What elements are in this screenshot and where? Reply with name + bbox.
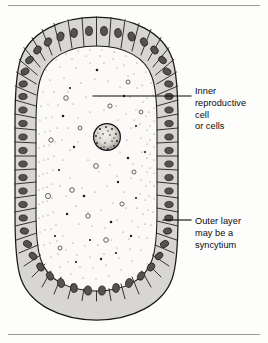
inner-reproductive-cell bbox=[94, 124, 121, 151]
cross-section-drawing bbox=[0, 0, 268, 343]
annotation-label-inner-reproductive-cell: Inner reproductive cell or cells bbox=[195, 86, 246, 133]
annotation-label-outer-layer-syncytium: Outer layer may be a syncytium bbox=[195, 216, 241, 251]
organism-cross-section-figure: Inner reproductive cell or cells Outer l… bbox=[0, 0, 268, 343]
